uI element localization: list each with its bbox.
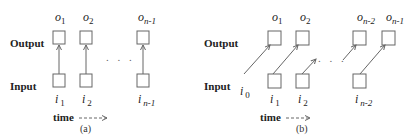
output-label-o1: o1: [55, 10, 66, 26]
output-label-o1-b: o1: [272, 10, 283, 26]
output-box-on-1-b: [382, 31, 395, 45]
input-box-i2: [80, 74, 92, 87]
output-box-o2: [80, 31, 92, 44]
output-box-o2-b: [296, 31, 309, 45]
input-box-in-1: [137, 74, 149, 87]
output-box-o1-b: [268, 31, 281, 45]
arrow-in-2-on-1: [360, 45, 385, 74]
input-label-i0-b: i0: [240, 84, 250, 100]
output-label-on-2-b: on-2: [357, 10, 375, 26]
ellipsis: . . .: [106, 51, 135, 63]
output-label-on-1: on-1: [138, 10, 156, 26]
time-label: time: [53, 111, 74, 123]
input-box-i1: [53, 74, 65, 87]
output-box-o1: [53, 31, 65, 44]
input-label-i2: i2: [82, 92, 92, 108]
time-label-b: time: [260, 111, 281, 123]
input-label-i2-b: i2: [298, 92, 308, 108]
input-label-i1-b: i1: [270, 92, 280, 108]
input-box-i2-b: [296, 74, 309, 88]
recurrence-diagram: Output Input o1 o2 on-1 . . . i1 i2 in-1…: [0, 0, 416, 138]
output-label-o2-b: o2: [300, 10, 311, 26]
output-row-label: Output: [10, 37, 45, 49]
arrow-i2-next: [302, 59, 316, 74]
input-row-label: Input: [10, 80, 37, 92]
input-row-label-b: Input: [204, 80, 231, 92]
ellipsis-b: . . .: [318, 52, 347, 64]
input-label-i1: i1: [55, 92, 65, 108]
input-box-i1-b: [268, 74, 281, 88]
panel-a: Output Input o1 o2 on-1 . . . i1 i2 in-1…: [10, 10, 156, 135]
panel-b-caption: (b): [296, 123, 308, 135]
input-label-in-1: in-1: [138, 92, 155, 108]
output-row-label-b: Output: [204, 37, 239, 49]
output-box-on-2-b: [353, 31, 366, 45]
output-label-o2: o2: [83, 10, 94, 26]
arrow-i1-o2: [273, 45, 298, 74]
arrow-i0-o1: [244, 45, 270, 74]
input-box-in-2-b: [353, 74, 366, 88]
panel-a-caption: (a): [80, 123, 91, 135]
input-label-in-2-b: in-2: [355, 92, 373, 108]
output-box-on-1: [137, 31, 149, 44]
output-label-on-1-b: on-1: [386, 10, 404, 26]
panel-b: Output Input o1 o2 on-2 on-1 . . . i0 i1…: [204, 10, 404, 135]
